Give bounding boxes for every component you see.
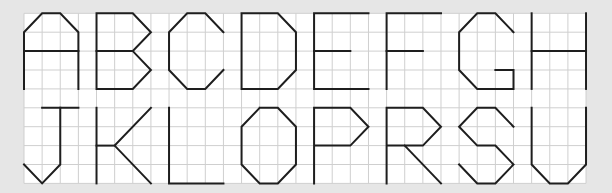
- letter-grid-diagram: [0, 0, 612, 193]
- grid-background: [24, 13, 586, 183]
